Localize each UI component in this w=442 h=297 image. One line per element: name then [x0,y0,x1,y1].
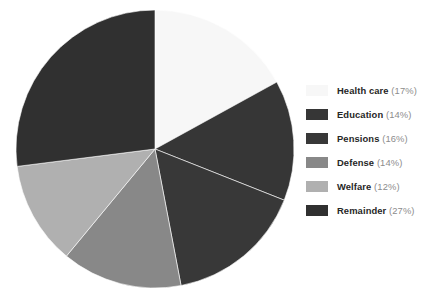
legend-item-percent: (14%) [383,109,411,120]
legend-item-percent: (12%) [371,181,399,192]
legend-item-text: Education (14%) [337,109,411,120]
legend-swatch-icon [306,85,328,96]
legend-item-defense[interactable]: Defense (14%) [306,150,438,174]
pie-slice-group [16,10,294,288]
legend-item-label: Health care [337,85,389,96]
legend-item-text: Pensions (16%) [337,133,408,144]
legend-item-label: Welfare [337,181,371,192]
legend-item-remainder[interactable]: Remainder (27%) [306,198,438,222]
legend-item-health-care[interactable]: Health care (17%) [306,78,438,102]
legend-item-pensions[interactable]: Pensions (16%) [306,126,438,150]
legend-swatch-icon [306,205,328,216]
pie-chart-figure: Health care (17%)Education (14%)Pensions… [0,0,442,297]
legend-item-text: Welfare (12%) [337,181,400,192]
legend-item-label: Education [337,109,383,120]
legend-swatch-icon [306,181,328,192]
legend-item-label: Pensions [337,133,379,144]
legend-item-label: Remainder [337,205,386,216]
legend-swatch-icon [306,157,328,168]
legend-item-percent: (14%) [374,157,402,168]
legend-item-text: Remainder (27%) [337,205,415,216]
legend-item-percent: (16%) [379,133,407,144]
legend-item-welfare[interactable]: Welfare (12%) [306,174,438,198]
legend-item-education[interactable]: Education (14%) [306,102,438,126]
chart-legend: Health care (17%)Education (14%)Pensions… [306,78,438,222]
legend-item-text: Health care (17%) [337,85,417,96]
legend-item-percent: (27%) [386,205,414,216]
legend-swatch-icon [306,133,328,144]
legend-item-percent: (17%) [389,85,417,96]
legend-item-label: Defense [337,157,374,168]
legend-item-text: Defense (14%) [337,157,402,168]
legend-swatch-icon [306,109,328,120]
pie-slice-remainder[interactable] [16,10,155,166]
